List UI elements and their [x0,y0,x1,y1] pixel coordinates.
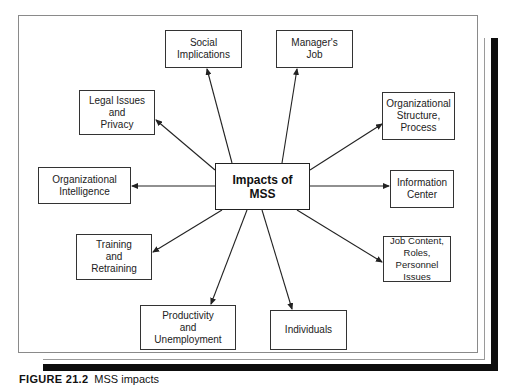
arrow-to-manager [282,69,297,163]
node-managers-job: Manager's Job [276,30,353,68]
arrow-to-org-structure [310,124,382,170]
figure-caption: FIGURE 21.2MSS impacts [19,373,159,385]
node-training-retraining: Training and Retraining [76,234,152,280]
node-productivity-unemployment: Productivity and Unemployment [140,305,236,350]
node-information-center: Information Center [390,170,454,208]
center-node-impacts-of-mss: Impacts of MSS [215,163,310,210]
figure-caption-text: MSS impacts [94,373,159,385]
arrow-to-job-content [297,210,382,262]
figure-label: FIGURE 21.2 [19,373,88,385]
node-legal-issues-privacy: Legal Issues and Privacy [79,90,155,135]
node-organizational-structure: Organizational Structure, Process [382,92,455,140]
arrow-to-training [153,210,222,252]
arrow-to-social [207,69,232,163]
arrow-to-legal [156,120,215,170]
node-organizational-intelligence: Organizational Intelligence [38,167,131,204]
node-social-implications: Social Implications [165,30,242,68]
arrow-to-productivity [211,210,247,304]
arrow-to-individuals [262,210,292,309]
node-job-content-roles: Job Content, Roles, Personnel Issues [383,236,451,282]
node-individuals: Individuals [270,310,347,350]
